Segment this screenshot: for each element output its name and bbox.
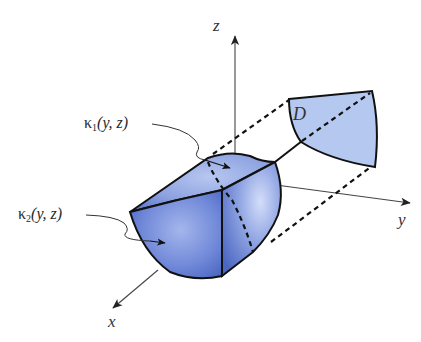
y-axis-label: y — [398, 211, 406, 228]
z-axis-label: z — [213, 17, 220, 34]
projection-connector — [275, 141, 302, 162]
x-axis — [113, 270, 158, 308]
kappa2-label: κ2(y, z) — [18, 206, 62, 224]
solid-region — [130, 153, 281, 278]
kappa1-args: (y, z) — [97, 114, 128, 131]
diagram-canvas — [0, 0, 421, 342]
region-d — [289, 91, 377, 167]
kappa1-symbol: κ — [84, 114, 92, 131]
kappa1-label: κ1(y, z) — [84, 115, 128, 133]
x-axis-label: x — [108, 313, 116, 330]
kappa2-symbol: κ — [18, 205, 26, 222]
kappa2-args: (y, z) — [31, 205, 62, 222]
region-d-label: D — [293, 105, 306, 123]
